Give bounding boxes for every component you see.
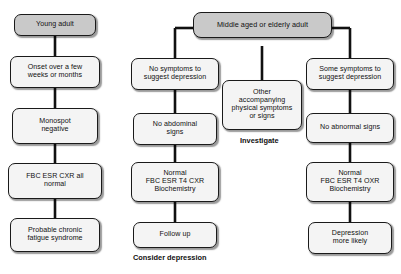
node-middle-aged-or-elderly-adult[interactable]: Middle aged or elderly adult (193, 12, 332, 38)
node-normal-fbc-esr-t4-cxr-biochemistry[interactable]: Normal FBC ESR T4 CXR Biochemistry (131, 162, 219, 202)
caption-investigate: Investigate (240, 136, 279, 145)
node-follow-up[interactable]: Follow up (133, 222, 217, 248)
node-young-adult[interactable]: Young adult (14, 14, 96, 36)
node-normal-fbc-esr-t4-oxr-biochemistry[interactable]: Normal FBC ESR T4 OXR Biochemistry (306, 162, 394, 202)
node-no-abnormal-signs[interactable]: No abnormal signs (306, 113, 394, 143)
node-probable-chronic-fatigue[interactable]: Probable chronic fatigue syndrome (10, 218, 100, 252)
node-no-symptoms-suggest-depression[interactable]: No symptoms to suggest depression (131, 58, 219, 90)
flowchart-canvas: Young adult Onset over a few weeks or mo… (0, 0, 401, 274)
node-fbc-esr-cxr-normal[interactable]: FBC ESR CXR all normal (8, 163, 102, 199)
node-no-abdominal-signs[interactable]: No abdominal signs (133, 113, 217, 145)
node-depression-more-likely[interactable]: Depression more likely (308, 222, 392, 254)
node-some-symptoms-suggest-depression[interactable]: Some symptoms to suggest depression (306, 58, 394, 90)
node-other-accompanying-physical-symptoms[interactable]: Other accompanying physical symptoms or … (222, 80, 302, 130)
node-onset-weeks-months[interactable]: Onset over a few weeks or months (10, 56, 100, 88)
caption-consider-depression: Consider depression (133, 253, 207, 262)
node-monospot-negative[interactable]: Monospot negative (12, 108, 98, 144)
